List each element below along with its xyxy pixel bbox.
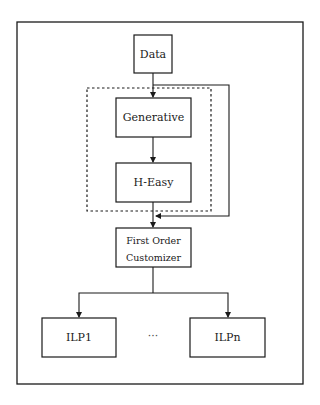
node-ilpn-label: ILPn bbox=[214, 331, 240, 344]
node-first-order-customizer: First Order Customizer bbox=[116, 228, 191, 267]
node-generative-label: Generative bbox=[123, 111, 184, 124]
node-generative: Generative bbox=[116, 98, 191, 137]
node-customizer-label-line2: Customizer bbox=[126, 252, 181, 263]
pipeline-diagram: Data Generative H-Easy First Order Custo… bbox=[0, 0, 320, 405]
node-data-label: Data bbox=[140, 48, 167, 61]
node-ilp1-label: ILP1 bbox=[66, 331, 92, 344]
edge-customizer-ilpn bbox=[153, 293, 228, 317]
node-ilpn: ILPn bbox=[190, 318, 265, 357]
node-customizer-label-line1: First Order bbox=[126, 235, 181, 246]
node-data: Data bbox=[134, 35, 172, 73]
ellipsis: ··· bbox=[148, 330, 159, 343]
edge-customizer-ilp1 bbox=[79, 293, 153, 317]
node-h-easy-label: H-Easy bbox=[134, 176, 175, 189]
node-h-easy: H-Easy bbox=[116, 163, 191, 202]
node-ilp1: ILP1 bbox=[42, 318, 116, 357]
